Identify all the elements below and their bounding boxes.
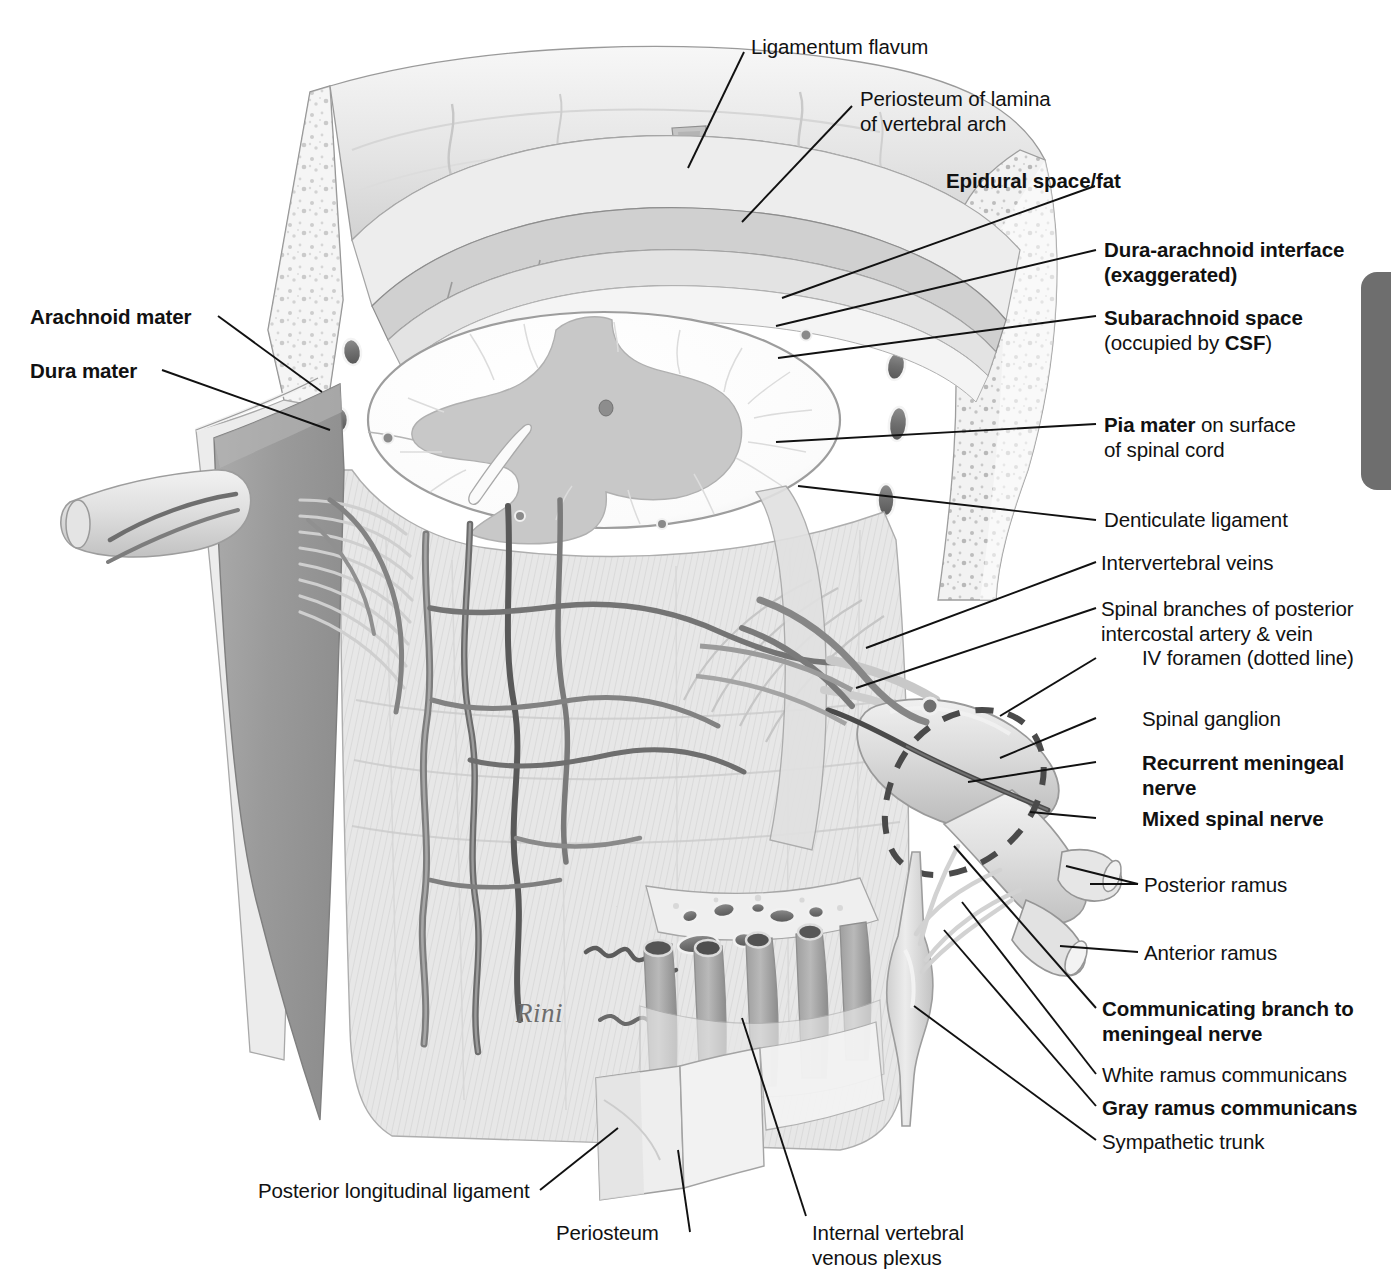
label-dura-mater: Dura mater <box>30 358 137 383</box>
page-edge-tab <box>1361 272 1391 490</box>
label-pia-mater-line1: Pia mater on surface <box>1104 412 1296 437</box>
label-white-ramus-communicans: White ramus communicans <box>1102 1062 1347 1087</box>
artist-signature: Rini <box>516 998 563 1029</box>
pia-mater-bold: Pia mater <box>1104 413 1195 436</box>
label-spinal-branches-line2: intercostal artery & vein <box>1101 621 1313 646</box>
label-spinal-ganglion: Spinal ganglion <box>1142 706 1281 731</box>
label-subarachnoid-space: Subarachnoid space <box>1104 305 1303 330</box>
label-iv-foramen: IV foramen (dotted line) <box>1142 645 1354 670</box>
subarachnoid-sub-suffix: ) <box>1265 331 1272 354</box>
label-pia-mater-line2: of spinal cord <box>1104 437 1225 462</box>
label-gray-ramus-communicans: Gray ramus communicans <box>1102 1095 1357 1120</box>
label-mixed-spinal-nerve: Mixed spinal nerve <box>1142 806 1324 831</box>
label-denticulate-ligament: Denticulate ligament <box>1104 507 1288 532</box>
label-communicating-branch-line1: Communicating branch to <box>1102 996 1354 1021</box>
subarachnoid-sub-csf: CSF <box>1225 331 1266 354</box>
label-periosteum-lamina-line1: Periosteum of lamina <box>860 86 1051 111</box>
label-posterior-ramus: Posterior ramus <box>1144 872 1287 897</box>
label-dura-arachnoid-interface-line1: Dura-arachnoid interface <box>1104 237 1344 262</box>
label-periosteum-lamina-line2: of vertebral arch <box>860 111 1006 136</box>
label-internal-venous-plexus-line1: Internal vertebral <box>812 1220 964 1245</box>
label-periosteum: Periosteum <box>556 1220 659 1245</box>
label-intervertebral-veins: Intervertebral veins <box>1101 550 1273 575</box>
pia-mater-rest: on surface <box>1195 413 1295 436</box>
subarachnoid-sub-prefix: (occupied by <box>1104 331 1225 354</box>
label-recurrent-meningeal-nerve-line1: Recurrent meningeal <box>1142 750 1344 775</box>
label-recurrent-meningeal-nerve-line2: nerve <box>1142 775 1196 800</box>
label-arachnoid-mater: Arachnoid mater <box>30 304 191 329</box>
label-internal-venous-plexus-line2: venous plexus <box>812 1245 942 1270</box>
label-sympathetic-trunk: Sympathetic trunk <box>1102 1129 1264 1154</box>
label-communicating-branch-line2: meningeal nerve <box>1102 1021 1262 1046</box>
label-ligamentum-flavum: Ligamentum flavum <box>751 34 928 59</box>
label-anterior-ramus: Anterior ramus <box>1144 940 1277 965</box>
label-posterior-longitudinal-ligament: Posterior longitudinal ligament <box>258 1178 530 1203</box>
label-spinal-branches-line1: Spinal branches of posterior <box>1101 596 1353 621</box>
label-subarachnoid-space-sub: (occupied by CSF) <box>1104 330 1272 355</box>
label-dura-arachnoid-interface-line2: (exaggerated) <box>1104 262 1237 287</box>
label-epidural-space-fat: Epidural space/fat <box>946 168 1121 193</box>
